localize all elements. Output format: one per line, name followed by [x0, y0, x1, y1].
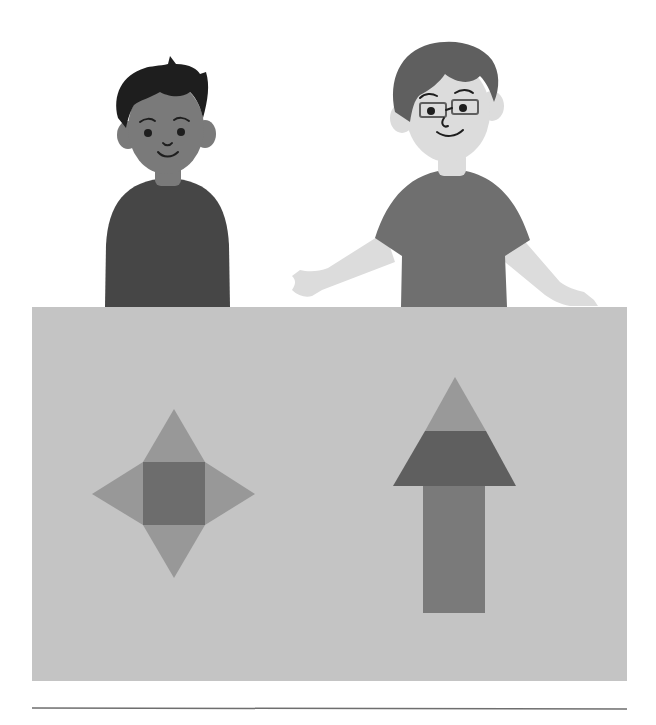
boy-right-eye-right: [459, 104, 467, 112]
boy-right-eye-left: [427, 107, 435, 115]
illustration: [0, 0, 656, 725]
boy-left-eye-right: [177, 128, 185, 136]
boy-left-body: [105, 178, 230, 307]
separator-line: [32, 708, 627, 709]
boy-right: [292, 42, 598, 307]
boy-right-body: [375, 169, 530, 307]
net-square: [143, 462, 205, 525]
boy-right-arm-left: [292, 232, 395, 297]
arrow-stem: [423, 486, 485, 613]
boy-left-eye-left: [144, 129, 152, 137]
boy-left: [105, 56, 230, 307]
